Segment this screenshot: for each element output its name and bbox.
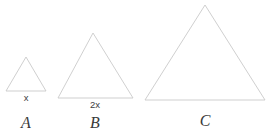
triangle-a-label: A xyxy=(21,115,31,131)
triangle-c-label: C xyxy=(200,113,211,129)
triangle-b-side-label: 2x xyxy=(90,100,100,110)
triangle-a-side-label: x xyxy=(24,93,29,103)
triangle-b-label: B xyxy=(90,115,100,131)
triangle-a-shape xyxy=(6,57,46,91)
triangles-canvas xyxy=(0,0,269,137)
triangle-c-shape xyxy=(145,5,265,100)
geometry-figure: x 2x A B C xyxy=(0,0,269,137)
triangle-b-shape xyxy=(58,33,133,98)
